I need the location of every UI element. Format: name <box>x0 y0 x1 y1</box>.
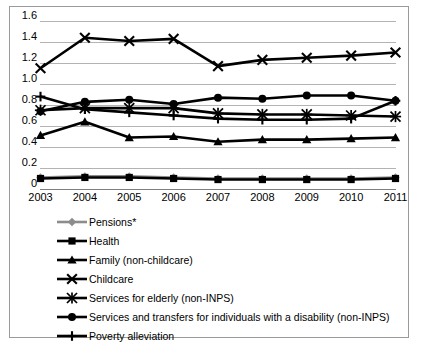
data-point-triangle <box>80 117 89 125</box>
y-axis-tick-label: 0.2 <box>22 157 37 168</box>
legend-label: Poverty alleviation <box>89 330 174 342</box>
legend-label: Services for elderly (non-INPS) <box>89 292 234 304</box>
data-point-square <box>126 174 133 181</box>
legend-label: Pensions* <box>89 216 136 228</box>
series-3 <box>36 33 401 73</box>
data-point-circle <box>258 95 266 103</box>
x-axis-tick-label: 2008 <box>250 190 274 204</box>
data-point-circle <box>125 96 133 104</box>
data-point-circle <box>303 92 311 100</box>
chart-figure: 00.20.40.60.81.01.21.41.6 20032004200520… <box>9 6 409 338</box>
data-point-asterisk <box>66 292 77 303</box>
legend-item[interactable]: Family (non-childcare) <box>56 250 396 269</box>
data-point-square <box>259 176 266 183</box>
y-axis-tick-labels: 00.20.40.60.81.01.21.41.6 <box>10 15 40 183</box>
legend-marker-circle-icon <box>56 310 88 324</box>
data-point-plus <box>213 114 223 124</box>
x-axis-tick-label: 2009 <box>295 190 319 204</box>
data-point-square <box>81 174 88 181</box>
legend-marker-triangle-icon <box>56 253 88 267</box>
data-point-asterisk <box>390 111 401 122</box>
y-axis-tick-label: 1.6 <box>22 10 37 21</box>
data-point-square <box>303 176 310 183</box>
x-axis-tick-label: 2010 <box>339 190 363 204</box>
legend-label: Childcare <box>89 273 133 285</box>
data-point-circle <box>170 100 178 108</box>
y-axis-tick-label: 0 <box>31 178 37 189</box>
data-point-circle <box>37 107 45 115</box>
data-point-plus <box>391 96 401 106</box>
x-axis-tick-label: 2004 <box>73 190 97 204</box>
legend-item[interactable]: Childcare <box>56 269 396 288</box>
y-axis-tick-label: 0.8 <box>22 94 37 105</box>
data-point-square <box>170 175 177 182</box>
legend-marker-square-icon <box>56 234 88 248</box>
x-axis-tick-label: 2011 <box>384 190 408 204</box>
data-point-square <box>37 175 44 182</box>
legend-marker-plus-icon <box>56 329 88 343</box>
y-axis-tick-label: 0.4 <box>22 136 37 147</box>
legend-label: Family (non-childcare) <box>89 254 193 266</box>
chart-legend: Pensions*HealthFamily (non-childcare)Chi… <box>56 212 396 345</box>
chart-series-layer <box>40 21 396 189</box>
y-axis-tick-label: 1.4 <box>22 31 37 42</box>
legend-item[interactable]: Services and transfers for individuals w… <box>56 307 396 326</box>
data-point-diamond <box>68 217 76 225</box>
data-point-square <box>392 175 399 182</box>
x-axis-tick-label: 2005 <box>117 190 141 204</box>
data-point-circle <box>347 92 355 100</box>
x-axis-tick-label: 2003 <box>28 190 52 204</box>
data-point-plus <box>302 115 312 125</box>
x-axis-tick-labels: 200320042005200620072008200920102011 <box>40 190 396 206</box>
data-point-square <box>68 237 75 244</box>
data-point-square <box>214 176 221 183</box>
legend-marker-cross-icon <box>56 272 88 286</box>
x-axis-tick-label: 2006 <box>161 190 185 204</box>
legend-item[interactable]: Pensions* <box>56 212 396 231</box>
legend-marker-asterisk-icon <box>56 291 88 305</box>
legend-item[interactable]: Services for elderly (non-INPS) <box>56 288 396 307</box>
data-point-circle <box>214 94 222 102</box>
series-line <box>41 38 396 68</box>
data-point-plus <box>67 331 77 341</box>
legend-label: Health <box>89 235 119 247</box>
legend-label: Services and transfers for individuals w… <box>89 311 390 323</box>
data-point-square <box>348 176 355 183</box>
legend-marker-diamond-icon <box>56 215 88 229</box>
legend-item[interactable]: Poverty alleviation <box>56 326 396 345</box>
y-axis-tick-label: 0.6 <box>22 115 37 126</box>
x-axis-tick-label: 2007 <box>206 190 230 204</box>
y-axis-tick-label: 1.0 <box>22 73 37 84</box>
y-axis-tick-label: 1.2 <box>22 52 37 63</box>
legend-item[interactable]: Health <box>56 231 396 250</box>
plot-area <box>40 21 396 189</box>
data-point-plus <box>258 115 268 125</box>
data-point-circle <box>68 313 76 321</box>
